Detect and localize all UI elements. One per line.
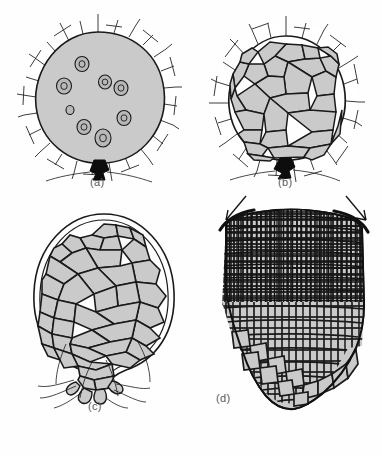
nucleus: [114, 81, 128, 96]
panel-b-illustration: [200, 14, 375, 184]
panel-b: (b): [200, 14, 375, 184]
nucleus: [99, 75, 112, 89]
nucleus: [66, 106, 74, 115]
panel-c-label: (c): [88, 400, 102, 412]
panel-b-label: (b): [278, 176, 292, 188]
apical-meristem-zone: [216, 206, 372, 310]
nucleus: [77, 120, 91, 135]
panel-c-illustration: [16, 208, 191, 408]
panel-c: (c): [16, 208, 191, 408]
panel-d: (d): [198, 196, 378, 416]
panel-a-label: (a): [90, 176, 104, 188]
cell-mass: [230, 42, 342, 161]
panel-a: (a): [10, 14, 185, 184]
nucleus: [95, 129, 111, 147]
nucleus: [57, 78, 72, 94]
nucleus: [117, 111, 131, 126]
panel-a-illustration: [10, 14, 185, 184]
figure-developmental-stages: (a): [0, 0, 382, 456]
cell-mass: [38, 224, 166, 390]
nucleus: [75, 57, 89, 72]
panel-d-label: (d): [216, 392, 230, 404]
panel-d-illustration: [198, 196, 378, 416]
